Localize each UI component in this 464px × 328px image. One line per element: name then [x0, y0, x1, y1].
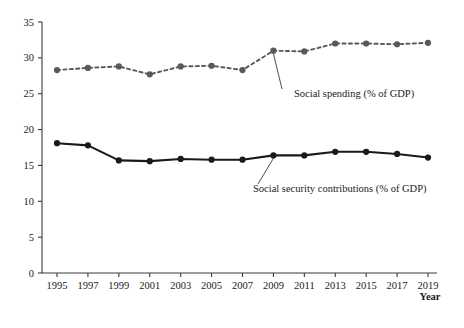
data-point-marker: [394, 41, 400, 47]
data-point-marker: [363, 149, 369, 155]
data-point-marker: [332, 149, 338, 155]
x-axis-ticks: 1995199719992001200320052007200920112013…: [47, 273, 439, 291]
series-1: [54, 40, 431, 78]
y-axis-ticks: 05101520253035: [24, 17, 43, 279]
data-point-marker: [208, 157, 214, 163]
data-point-marker: [116, 63, 122, 69]
data-point-marker: [54, 67, 60, 73]
series-layer: [54, 40, 431, 165]
data-point-marker: [239, 157, 245, 163]
x-tick-label: 2007: [232, 280, 253, 291]
data-point-marker: [85, 65, 91, 71]
data-point-marker: [178, 156, 184, 162]
data-point-marker: [147, 71, 153, 77]
line-chart: 05101520253035 1995199719992001200320052…: [0, 0, 464, 328]
data-point-marker: [363, 40, 369, 46]
data-point-marker: [425, 40, 431, 46]
annotation-leader-line: [258, 158, 273, 184]
x-tick-label: 1997: [77, 280, 98, 291]
annotation-layer: Social spending (% of GDP)Social securit…: [253, 54, 427, 195]
x-tick-label: 2001: [139, 280, 160, 291]
y-tick-label: 0: [29, 268, 34, 279]
series-2: [54, 140, 431, 164]
chart-container: 05101520253035 1995199719992001200320052…: [0, 0, 464, 328]
x-tick-label: 2009: [263, 280, 284, 291]
x-tick-label: 1995: [47, 280, 68, 291]
x-tick-label: 2003: [170, 280, 191, 291]
x-tick-label: 2017: [387, 280, 408, 291]
data-point-marker: [270, 152, 276, 158]
data-point-marker: [85, 142, 91, 148]
y-tick-label: 35: [24, 17, 35, 28]
x-tick-label: 2015: [356, 280, 377, 291]
data-point-marker: [332, 40, 338, 46]
data-point-marker: [54, 140, 60, 146]
data-point-marker: [270, 48, 276, 54]
x-tick-label: 2019: [418, 280, 439, 291]
x-tick-label: 2011: [294, 280, 315, 291]
data-point-marker: [116, 157, 122, 163]
y-tick-label: 20: [24, 124, 35, 135]
data-point-marker: [178, 63, 184, 69]
data-point-marker: [394, 151, 400, 157]
y-tick-label: 15: [24, 160, 35, 171]
x-tick-label: 2013: [325, 280, 346, 291]
x-axis-title: Year: [420, 291, 441, 302]
data-point-marker: [425, 154, 431, 160]
y-tick-label: 25: [24, 88, 35, 99]
data-point-marker: [301, 48, 307, 54]
x-tick-label: 2005: [201, 280, 222, 291]
y-tick-label: 5: [29, 232, 34, 243]
data-point-marker: [301, 152, 307, 158]
y-tick-label: 10: [24, 196, 35, 207]
annotation-leader-line: [273, 54, 282, 89]
data-point-marker: [208, 63, 214, 69]
series-annotation-label: Social security contributions (% of GDP): [253, 183, 427, 195]
series-annotation-label: Social spending (% of GDP): [294, 88, 415, 100]
x-tick-label: 1999: [108, 280, 129, 291]
data-point-marker: [239, 67, 245, 73]
y-tick-label: 30: [24, 52, 35, 63]
data-point-marker: [147, 158, 153, 164]
